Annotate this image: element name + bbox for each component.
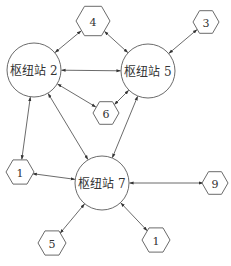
node-label: 4 [90, 16, 97, 29]
edge-h2-s6 [58, 84, 96, 107]
node-label: 枢纽站 7 [78, 176, 125, 191]
node-label: 3 [203, 17, 210, 30]
edge-h2-s4 [55, 31, 81, 52]
station-node-s1b: 1 [142, 228, 170, 252]
edge-h5-s6 [115, 90, 129, 104]
node-label: 6 [103, 108, 110, 121]
node-label: 1 [17, 167, 24, 180]
node-label: 枢纽站 5 [124, 64, 171, 79]
station-node-s9: 9 [202, 172, 228, 195]
edge-h2-h7 [48, 94, 88, 160]
edge-h5-h7 [112, 96, 137, 157]
edge-h7-s1a [33, 174, 75, 180]
station-node-s1a: 1 [6, 160, 34, 184]
edge-h7-s5 [60, 204, 84, 233]
edge-h2-s1a [22, 97, 31, 159]
hub-node-h5: 枢纽站 5 [121, 44, 175, 98]
nodes-layer: 枢纽站 2枢纽站 5枢纽站 74361951 [6, 6, 228, 255]
station-node-s6: 6 [93, 102, 119, 125]
node-label: 9 [212, 178, 219, 191]
node-label: 5 [49, 238, 56, 251]
station-node-s5: 5 [38, 231, 66, 255]
network-diagram: 枢纽站 2枢纽站 5枢纽站 74361951 [0, 0, 231, 266]
edge-h5-s4 [105, 32, 128, 53]
edge-h5-s3 [169, 30, 197, 54]
hub-node-h7: 枢纽站 7 [75, 156, 129, 210]
edge-h2-h5 [62, 70, 121, 71]
edge-h7-s1b [121, 203, 147, 231]
hub-node-h2: 枢纽站 2 [7, 43, 61, 97]
node-label: 枢纽站 2 [10, 63, 57, 78]
node-label: 1 [153, 235, 160, 248]
